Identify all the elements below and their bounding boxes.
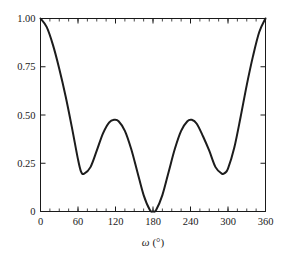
chart-figure: 060120180240300360 00.250.500.751.00 ω (… — [0, 0, 283, 259]
x-tick-label: 0 — [38, 216, 43, 227]
x-tick-labels: 060120180240300360 — [38, 216, 274, 227]
x-tick-label: 180 — [145, 216, 161, 227]
x-axis-title: ω (°) — [142, 236, 165, 249]
y-tick-labels: 00.250.500.751.00 — [17, 13, 35, 217]
plot-background — [40, 18, 266, 211]
x-tick-label: 120 — [108, 216, 124, 227]
y-tick-label: 0.75 — [17, 61, 35, 72]
x-tick-label: 360 — [258, 216, 274, 227]
x-tick-label: 300 — [220, 216, 236, 227]
y-tick-label: 0.50 — [17, 110, 35, 121]
y-tick-label: 1.00 — [17, 13, 35, 24]
y-tick-label: 0 — [30, 206, 35, 217]
x-tick-label: 240 — [183, 216, 199, 227]
y-tick-label: 0.25 — [17, 158, 35, 169]
x-tick-label: 60 — [73, 216, 84, 227]
x-axis-title-units: (°) — [150, 236, 165, 249]
